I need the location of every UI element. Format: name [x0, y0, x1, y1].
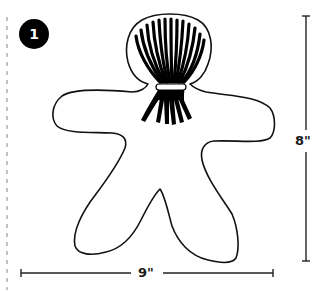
- width-label: 9": [135, 266, 157, 280]
- body-outline: [53, 14, 275, 262]
- height-label: 8": [292, 134, 314, 148]
- pattern-diagram: [0, 0, 329, 292]
- step-number: 1: [19, 26, 49, 42]
- tassel-fringe: [141, 90, 192, 125]
- tassel-band: [156, 84, 186, 90]
- tassel-icon: [136, 19, 204, 82]
